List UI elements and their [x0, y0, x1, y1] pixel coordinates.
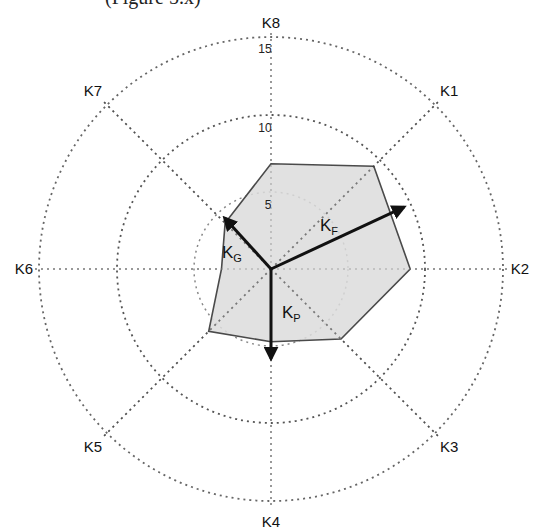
radar-chart: 51015 K1K2K3K4K5K6K7K8 KFKGKP	[0, 0, 545, 532]
tick-label-10: 10	[258, 121, 272, 135]
tick-label-5: 5	[265, 198, 272, 212]
axis-label-k1: K1	[440, 82, 458, 99]
axis-label-k3: K3	[440, 438, 458, 455]
axis-label-k6: K6	[15, 260, 33, 277]
axis-label-k2: K2	[511, 260, 529, 277]
axis-label-k8: K8	[262, 14, 280, 31]
axis-label-k7: K7	[84, 82, 102, 99]
axis-label-k5: K5	[84, 438, 102, 455]
tick-label-15: 15	[258, 42, 272, 56]
axis-label-k4: K4	[262, 513, 280, 530]
